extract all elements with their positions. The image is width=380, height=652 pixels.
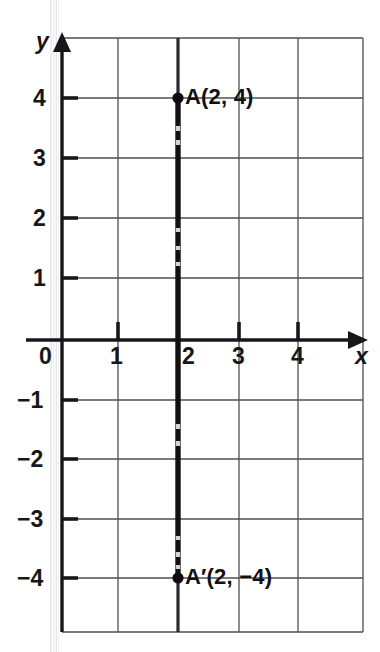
x-tick-label-2: 2 [182, 345, 195, 368]
y-axis-label: y [36, 30, 49, 53]
x-axis [26, 331, 368, 349]
y-tick-label-4: 4 [33, 87, 46, 110]
coordinate-plane-figure: 4 3 2 1 −1 −2 −3 −4 0 1 2 3 4 y x A(2, 4… [0, 0, 380, 652]
point-a-label: A(2, 4) [185, 86, 254, 108]
point-a-marker [172, 92, 183, 103]
x-tick-label-1: 1 [110, 345, 123, 368]
y-tick-label-2: 2 [33, 207, 46, 230]
x-tick-label-4: 4 [291, 345, 304, 368]
y-tick-label-1: 1 [33, 267, 46, 290]
x-axis-ticks [118, 322, 298, 340]
point-a-prime-marker [172, 572, 183, 583]
y-axis-ticks [62, 98, 78, 578]
y-tick-label-3: 3 [33, 147, 46, 170]
y-tick-label-neg-1: −1 [17, 389, 43, 412]
origin-label: 0 [39, 345, 52, 368]
x-axis-label: x [355, 345, 368, 368]
point-a-prime-label: A′(2, −4) [185, 566, 272, 588]
scan-artifact-streaks [51, 0, 60, 652]
grid-lines [62, 38, 363, 632]
y-tick-label-neg-2: −2 [17, 448, 43, 471]
y-tick-label-neg-3: −3 [17, 508, 43, 531]
x-tick-label-3: 3 [232, 345, 245, 368]
y-tick-label-neg-4: −4 [17, 567, 43, 590]
